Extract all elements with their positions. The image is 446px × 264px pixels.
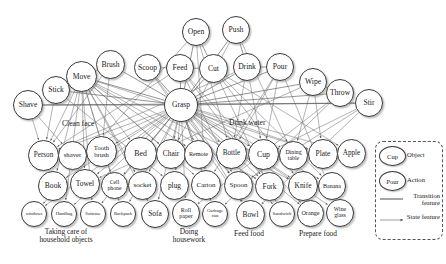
object-node-label: Sofa [147, 210, 163, 217]
action-node-drink[interactable]: Drink [233, 53, 261, 81]
object-node-spoon[interactable]: Spoon [224, 171, 253, 200]
action-node-push[interactable]: Push [222, 16, 250, 44]
legend-line-samples [375, 141, 441, 238]
action-node-cut[interactable]: Cut [199, 54, 228, 83]
object-node-backpack[interactable]: Backpack [110, 201, 136, 227]
object-node-label: Garbage can [203, 209, 227, 219]
group-label-feedfood: Feed food [224, 230, 274, 238]
object-node-label: Banana [322, 183, 342, 189]
object-node-label: windows [25, 212, 44, 217]
action-node-shave[interactable]: Shave [13, 90, 43, 120]
object-node-fork[interactable]: Fork [255, 172, 284, 201]
object-node-rollpaper[interactable]: Roll paper [172, 199, 200, 227]
action-node-pour[interactable]: Pour [266, 53, 294, 81]
object-node-diningtable[interactable]: Dining table [279, 141, 308, 170]
action-node-label: Scoop [137, 64, 158, 72]
feature-label-drink-water: Drink water [229, 118, 265, 127]
object-node-bowl[interactable]: Bowl [236, 200, 265, 229]
action-node-grasp[interactable]: Grasp [164, 88, 198, 122]
object-node-cup[interactable]: Cup [248, 139, 279, 170]
object-node-bed[interactable]: Bed [124, 137, 157, 170]
object-node-label: Cup [256, 151, 271, 159]
object-node-label: Bed [133, 150, 148, 158]
object-node-suitcase[interactable]: Suitcase [80, 201, 106, 227]
action-node-label: Cut [207, 65, 220, 73]
object-node-label: Spoon [229, 182, 249, 189]
object-node-label: Remote [188, 151, 209, 157]
object-node-toothbrush[interactable]: Tooth brush [86, 136, 117, 167]
object-node-label: Knife [294, 182, 313, 189]
object-node-carton[interactable]: Carton [191, 170, 221, 200]
action-node-label: Feed [172, 64, 189, 72]
action-node-feed[interactable]: Feed [166, 54, 194, 82]
object-node-person[interactable]: Person [28, 140, 59, 171]
action-node-label: Push [228, 26, 245, 34]
object-node-plate[interactable]: Plate [308, 139, 338, 169]
object-node-chair[interactable]: Chair [156, 139, 186, 169]
object-node-label: Apple [342, 150, 362, 157]
action-node-stick[interactable]: Stick [42, 76, 70, 104]
object-node-orange[interactable]: Orange [297, 200, 324, 227]
action-node-open[interactable]: Open [182, 18, 210, 46]
group-label-preparefood: Prepare food [288, 230, 348, 238]
action-node-throw[interactable]: Throw [326, 79, 354, 107]
object-node-label: socket [133, 182, 153, 189]
object-node-label: Fork [262, 183, 278, 190]
object-node-cellphone[interactable]: Cell phone [101, 172, 128, 199]
object-node-remote[interactable]: Remote [184, 140, 213, 169]
action-node-label: Brush [100, 61, 120, 69]
object-node-plug[interactable]: plug [160, 171, 189, 200]
action-node-label: Shave [18, 101, 39, 109]
object-node-shaver[interactable]: shaver [58, 141, 87, 170]
action-node-label: Stick [47, 86, 65, 94]
action-node-label: Open [187, 28, 205, 36]
object-node-label: Sandwich [272, 212, 293, 217]
action-node-label: Drink [237, 63, 257, 71]
action-node-label: Move [72, 73, 92, 81]
object-node-label: Roll paper [173, 207, 199, 219]
object-node-wineglass[interactable]: Wine glass [326, 199, 354, 227]
object-node-label: Cell phone [102, 180, 127, 192]
object-node-garbagecan[interactable]: Garbage can [202, 201, 228, 227]
object-node-label: Person [33, 152, 55, 159]
feature-label-clean-face: Clean face [62, 119, 94, 128]
object-node-banana[interactable]: Banana [318, 172, 346, 200]
object-node-windows[interactable]: windows [21, 201, 47, 227]
object-node-bottle[interactable]: Bottle [216, 138, 247, 169]
object-node-towel[interactable]: Towel [70, 169, 100, 199]
object-node-label: shaver [63, 152, 83, 159]
object-node-socket[interactable]: socket [128, 171, 157, 200]
object-node-sandwich[interactable]: Sandwich [269, 201, 295, 227]
object-node-label: Dining table [280, 150, 307, 162]
object-node-book[interactable]: Book [38, 171, 68, 201]
object-node-label: Backpack [113, 212, 133, 217]
action-node-scoop[interactable]: Scoop [134, 54, 161, 81]
action-node-label: Wipe [304, 78, 322, 86]
object-node-label: Handbag [55, 212, 74, 217]
action-node-stir[interactable]: Stir [355, 89, 383, 117]
action-node-label: Stir [363, 99, 376, 107]
object-node-sofa[interactable]: Sofa [141, 200, 169, 228]
action-node-brush[interactable]: Brush [96, 50, 125, 79]
group-label-housework: Doinghousework [161, 228, 217, 245]
object-node-label: Towel [75, 180, 95, 187]
object-node-label: Book [44, 182, 62, 190]
object-node-handbag[interactable]: Handbag [51, 201, 77, 227]
object-node-label: Wine glass [327, 207, 353, 219]
action-node-label: Throw [329, 89, 351, 97]
object-node-apple[interactable]: Apple [337, 139, 366, 168]
action-node-wipe[interactable]: Wipe [299, 68, 327, 96]
object-node-knife[interactable]: Knife [288, 171, 318, 201]
object-node-label: Carton [195, 182, 216, 189]
object-node-label: Suitcase [84, 212, 101, 217]
figure-canvas: OpenPushBrushScoopFeedCutDrinkPourMoveWi… [0, 0, 446, 264]
object-node-label: plug [167, 182, 182, 189]
object-node-label: Bowl [241, 211, 259, 218]
action-node-move[interactable]: Move [66, 61, 97, 92]
action-node-label: Grasp [171, 101, 191, 109]
object-node-label: Bottle [222, 150, 242, 157]
object-node-label: Chair [162, 150, 180, 157]
group-label-household: Taking care ofhousehold objects [14, 228, 118, 245]
object-node-label: Orange [300, 210, 320, 216]
object-node-label: Plate [315, 150, 332, 157]
